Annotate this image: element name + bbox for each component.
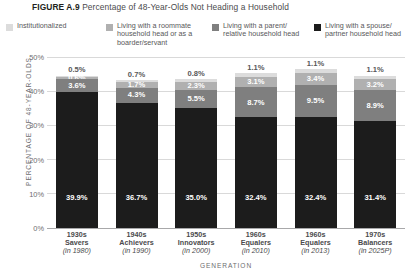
legend-label-institutionalized: Institutionalized bbox=[17, 22, 67, 30]
gridline-20 bbox=[47, 159, 405, 160]
x-axis-label: 1960sEqualers(in 2013) bbox=[287, 231, 345, 256]
y-axis-ticks: 0%10%20%30%40%50% bbox=[8, 57, 44, 228]
bar-segment[interactable]: 39.9% bbox=[56, 92, 98, 228]
bar-segment-label: 8.9% bbox=[367, 102, 384, 110]
bar-segment[interactable]: 32.4% bbox=[235, 117, 277, 228]
bar-segment-label: 3.1% bbox=[247, 78, 264, 86]
bar-segment-label: 4.3% bbox=[128, 91, 145, 99]
x-label-year: (in 2013) bbox=[287, 247, 345, 255]
bar-segment[interactable]: 2.3% bbox=[175, 82, 217, 90]
bar-segment-label: 3.4% bbox=[307, 75, 324, 83]
gridline-40 bbox=[47, 91, 405, 92]
x-label-year: (in 2000) bbox=[167, 247, 225, 255]
bar-segment-label: 2.3% bbox=[188, 82, 205, 90]
bar-segment[interactable]: 3.4% bbox=[295, 73, 337, 85]
bar-segment[interactable]: 32.4% bbox=[295, 117, 337, 228]
y-tick-label-30: 30% bbox=[10, 121, 44, 130]
bar-segment-label: 1.1% bbox=[354, 66, 396, 74]
bar-segment-label: 31.4% bbox=[354, 194, 396, 202]
bar-segment-label: 32.4% bbox=[295, 194, 337, 202]
x-axis-label: 1970sBalancers(in 2025P) bbox=[346, 231, 404, 256]
bar-segment-label: 3.6% bbox=[68, 82, 85, 90]
x-label-year: (in 2025P) bbox=[346, 247, 404, 255]
bar-segment[interactable]: 31.4% bbox=[354, 121, 396, 228]
x-axis-title: GENERATION bbox=[47, 262, 405, 269]
figure-a9-chart: FIGURE A.9 Percentage of 48-Year-Olds No… bbox=[0, 0, 415, 274]
y-tick-label-10: 10% bbox=[10, 190, 44, 199]
legend-label-parent-relative: Living with a parent/ relative household… bbox=[223, 22, 299, 39]
bar-segment[interactable]: 3.1% bbox=[235, 77, 277, 88]
x-axis-label: 1930sSavers(in 1980) bbox=[48, 231, 106, 256]
bar-segment[interactable]: 3.2% bbox=[354, 79, 396, 90]
bar-stack: 1.1%3.4%9.5%32.4% bbox=[295, 69, 337, 228]
y-tick-label-0: 0% bbox=[10, 224, 44, 233]
legend-swatch-roommate bbox=[106, 24, 113, 31]
legend-label-roommate: Living with a roommate household head or… bbox=[117, 22, 192, 47]
legend-swatch-institutionalized bbox=[6, 24, 13, 31]
gridline-10 bbox=[47, 193, 405, 194]
bar-stack: 0.5%0.6%3.6%39.9% bbox=[56, 76, 98, 229]
bar-segment-label: 8.7% bbox=[247, 99, 264, 107]
bar-segment[interactable]: 8.7% bbox=[235, 87, 277, 117]
y-tick-label-20: 20% bbox=[10, 156, 44, 165]
legend-swatch-spouse-partner bbox=[314, 24, 321, 31]
bar-segment[interactable]: 4.3% bbox=[116, 88, 158, 103]
figure-caption: Percentage of 48-Year-Olds Not Heading a… bbox=[82, 2, 289, 12]
bar-segment-label: 35.0% bbox=[175, 194, 217, 202]
bar-segment-label: 39.9% bbox=[56, 194, 98, 202]
x-axis-labels: 1930sSavers(in 1980)1940sAchievers(in 19… bbox=[47, 231, 405, 261]
bar-segment-label: 0.7% bbox=[116, 71, 158, 79]
x-axis-label: 1950sInnovators(in 2000) bbox=[167, 231, 225, 256]
bar-segment-label: 36.7% bbox=[116, 194, 158, 202]
y-tick-label-50: 50% bbox=[10, 53, 44, 62]
bar-segment-label: 1.1% bbox=[295, 60, 337, 68]
x-label-year: (in 2010) bbox=[227, 247, 285, 255]
figure-title: FIGURE A.9 Percentage of 48-Year-Olds No… bbox=[32, 2, 289, 12]
bar-stack: 1.1%3.1%8.7%32.4% bbox=[235, 73, 277, 228]
figure-number: FIGURE A.9 bbox=[32, 2, 80, 12]
bar-segment[interactable]: 36.7% bbox=[116, 103, 158, 229]
bar-segment-label: 3.2% bbox=[367, 81, 384, 89]
bar-stack: 0.8%2.3%5.5%35.0% bbox=[175, 79, 217, 228]
legend-swatch-parent-relative bbox=[212, 24, 219, 31]
legend-label-spouse-partner: Living with a spouse/ partner household … bbox=[325, 22, 401, 39]
bar-stack: 1.1%3.2%8.9%31.4% bbox=[354, 76, 396, 229]
bar-segment[interactable]: 35.0% bbox=[175, 108, 217, 228]
bar-stack: 0.7%1.7%4.3%36.7% bbox=[116, 80, 158, 228]
bar-segment-label: 1.1% bbox=[235, 64, 277, 72]
gridline-30 bbox=[47, 125, 405, 126]
bar-segment[interactable]: 5.5% bbox=[175, 90, 217, 109]
y-tick-label-40: 40% bbox=[10, 87, 44, 96]
bar-segment-label: 9.5% bbox=[307, 97, 324, 105]
x-label-year: (in 1990) bbox=[108, 247, 166, 255]
plot-area: 0.5%0.6%3.6%39.9%0.7%1.7%4.3%36.7%0.8%2.… bbox=[47, 57, 405, 228]
bar-segment[interactable]: 9.5% bbox=[295, 85, 337, 117]
bar-segment-label: 5.5% bbox=[188, 95, 205, 103]
x-axis-label: 1940sAchievers(in 1990) bbox=[108, 231, 166, 256]
bar-segment[interactable]: 3.6% bbox=[56, 79, 98, 91]
chart-legend: Institutionalized Living with a roommate… bbox=[4, 22, 412, 52]
bar-segment[interactable]: 8.9% bbox=[354, 90, 396, 120]
gridline-50 bbox=[47, 57, 405, 58]
bar-segment-label: 0.8% bbox=[175, 70, 217, 78]
bar-segment-label: 32.4% bbox=[235, 194, 277, 202]
x-label-year: (in 1980) bbox=[48, 247, 106, 255]
gridline-0 bbox=[47, 228, 405, 229]
x-axis-label: 1960sEqualers(in 2010) bbox=[227, 231, 285, 256]
